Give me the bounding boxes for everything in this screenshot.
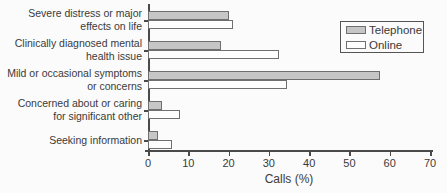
category-label-line: health issue xyxy=(0,50,142,63)
x-axis-tick-label: 70 xyxy=(418,157,442,169)
category-label: Mild or occasional symptomsor concerns xyxy=(0,67,142,93)
category-label-line: Concerned about or caring xyxy=(0,97,142,110)
category-label-line: Seeking information xyxy=(0,134,142,147)
x-axis-tick-label: 30 xyxy=(257,157,281,169)
category-label: Clinically diagnosed mentalhealth issue xyxy=(0,37,142,63)
legend-label-telephone: Telephone xyxy=(369,24,422,36)
bar-online xyxy=(148,80,287,89)
bar-telephone xyxy=(148,41,221,50)
x-axis-tick xyxy=(148,152,150,156)
x-axis-tick-label: 40 xyxy=(297,157,321,169)
category-label: Concerned about or caringfor significant… xyxy=(0,97,142,123)
bar-online xyxy=(148,50,279,59)
category-label: Seeking information xyxy=(0,134,142,147)
x-axis-tick xyxy=(390,152,392,156)
category-label-line: Severe distress or major xyxy=(0,7,142,20)
category-label-line: Clinically diagnosed mental xyxy=(0,37,142,50)
x-axis-tick xyxy=(349,152,351,156)
bar-online xyxy=(148,20,233,29)
x-axis-title: Calls (%) xyxy=(254,172,324,186)
legend: Telephone Online xyxy=(340,21,424,53)
category-label-line: effects on life xyxy=(0,20,142,33)
bar-online xyxy=(148,140,172,149)
category-label-line: Mild or occasional symptoms xyxy=(0,67,142,80)
x-axis-tick xyxy=(430,152,432,156)
bar-telephone xyxy=(148,131,158,140)
bar-online xyxy=(148,110,180,119)
bar-chart: Calls (%) Telephone Online Severe distre… xyxy=(0,0,447,193)
legend-item-online: Online xyxy=(346,38,423,51)
x-axis-tick-label: 20 xyxy=(217,157,241,169)
category-label: Severe distress or majoreffects on life xyxy=(0,7,142,33)
x-axis-tick-label: 60 xyxy=(378,157,402,169)
x-axis-tick xyxy=(269,152,271,156)
legend-label-online: Online xyxy=(369,39,402,51)
bar-telephone xyxy=(148,101,162,110)
legend-item-telephone: Telephone xyxy=(346,23,423,36)
bar-telephone xyxy=(148,71,380,80)
category-label-line: or concerns xyxy=(0,80,142,93)
x-axis-tick-label: 50 xyxy=(337,157,361,169)
x-axis-tick-label: 0 xyxy=(136,157,160,169)
x-axis-tick xyxy=(229,152,231,156)
telephone-swatch-icon xyxy=(346,26,366,34)
x-axis-tick xyxy=(188,152,190,156)
online-swatch-icon xyxy=(346,41,366,49)
bar-telephone xyxy=(148,11,229,20)
category-label-line: for significant other xyxy=(0,110,142,123)
x-axis-tick xyxy=(309,152,311,156)
x-axis-tick-label: 10 xyxy=(176,157,200,169)
